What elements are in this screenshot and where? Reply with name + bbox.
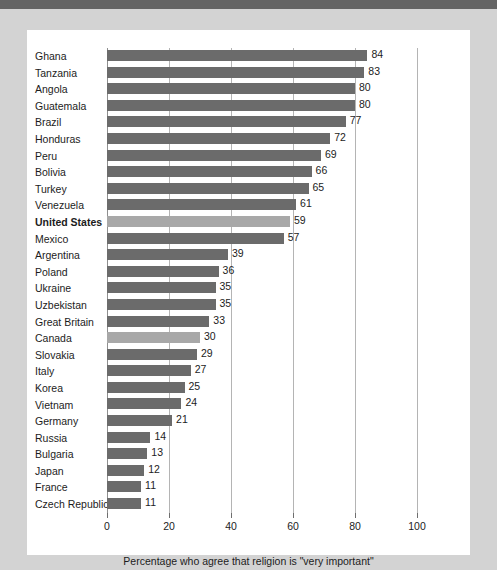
bar-value-label: 11	[145, 497, 156, 508]
bar[interactable]	[107, 316, 209, 327]
bar-row[interactable]: Bolivia66	[27, 164, 470, 181]
bar-row[interactable]: Ukraine35	[27, 280, 470, 297]
bar-rows: Ghana84Tanzania83Angola80Guatemala80Braz…	[27, 48, 470, 513]
bar[interactable]	[107, 349, 197, 360]
bar[interactable]	[107, 249, 228, 260]
category-label: France	[27, 482, 99, 493]
bar[interactable]	[107, 67, 364, 78]
bar-track	[107, 116, 417, 127]
bar-track	[107, 316, 417, 327]
bar-value-label: 39	[232, 248, 244, 259]
bar[interactable]	[107, 465, 144, 476]
bar[interactable]	[107, 116, 346, 127]
bar-track	[107, 415, 417, 426]
bar-row[interactable]: Korea25	[27, 380, 470, 397]
bar-row[interactable]: Honduras72	[27, 131, 470, 148]
bar[interactable]	[107, 133, 330, 144]
category-label: Venezuela	[27, 200, 99, 211]
bar-row[interactable]: Great Britain33	[27, 314, 470, 331]
bar-row[interactable]: Czech Republic11	[27, 496, 470, 513]
bar[interactable]	[107, 50, 367, 61]
x-axis: 020406080100	[27, 513, 470, 543]
bar-value-label: 65	[313, 182, 325, 193]
bar-value-label: 80	[359, 99, 371, 110]
bar-row[interactable]: Angola80	[27, 81, 470, 98]
bar[interactable]	[107, 282, 216, 293]
bar[interactable]	[107, 481, 141, 492]
bar-row[interactable]: United States59	[27, 214, 470, 231]
bar-row[interactable]: Canada30	[27, 330, 470, 347]
bar-row[interactable]: Brazil77	[27, 114, 470, 131]
bar-row[interactable]: Japan12	[27, 463, 470, 480]
category-label: Turkey	[27, 184, 99, 195]
bar-row[interactable]: Guatemala80	[27, 98, 470, 115]
bar-track	[107, 382, 417, 393]
bar[interactable]	[107, 382, 185, 393]
bar-value-label: 29	[201, 348, 213, 359]
bar-row[interactable]: Venezuela61	[27, 197, 470, 214]
bar-row[interactable]: France11	[27, 479, 470, 496]
bar-row[interactable]: Peru69	[27, 148, 470, 165]
bar[interactable]	[107, 199, 296, 210]
bar-value-label: 66	[316, 165, 328, 176]
bar[interactable]	[107, 398, 181, 409]
bar[interactable]	[107, 183, 309, 194]
category-label: Japan	[27, 466, 99, 477]
category-label: Tanzania	[27, 68, 99, 79]
bar[interactable]	[107, 448, 147, 459]
bar-row[interactable]: Germany21	[27, 413, 470, 430]
bar-value-label: 61	[300, 198, 312, 209]
x-tick-100	[417, 513, 418, 518]
category-label: Ghana	[27, 51, 99, 62]
chart-panel: Ghana84Tanzania83Angola80Guatemala80Braz…	[27, 30, 470, 555]
bar[interactable]	[107, 332, 200, 343]
bar-row[interactable]: Turkey65	[27, 181, 470, 198]
bar-row[interactable]: Ghana84	[27, 48, 470, 65]
bar-row[interactable]: Mexico57	[27, 231, 470, 248]
bar[interactable]	[107, 83, 355, 94]
category-label: Vietnam	[27, 400, 99, 411]
x-tick-40	[231, 513, 232, 518]
category-label: Czech Republic	[27, 499, 99, 510]
bar[interactable]	[107, 415, 172, 426]
bar-row[interactable]: Vietnam24	[27, 396, 470, 413]
bar[interactable]	[107, 216, 290, 227]
bar-track	[107, 233, 417, 244]
bar[interactable]	[107, 150, 321, 161]
bar-track	[107, 249, 417, 260]
bar-row[interactable]: Uzbekistan35	[27, 297, 470, 314]
bar-row[interactable]: Poland36	[27, 264, 470, 281]
bar-row[interactable]: Argentina39	[27, 247, 470, 264]
bar-row[interactable]: Tanzania83	[27, 65, 470, 82]
x-axis-caption: Percentage who agree that religion is "v…	[27, 555, 470, 567]
bar-value-label: 69	[325, 149, 337, 160]
bar[interactable]	[107, 166, 312, 177]
bar-row[interactable]: Russia14	[27, 430, 470, 447]
bar-track	[107, 166, 417, 177]
bar[interactable]	[107, 432, 150, 443]
bar-row[interactable]: Italy27	[27, 363, 470, 380]
bar[interactable]	[107, 233, 284, 244]
category-label: Angola	[27, 84, 99, 95]
category-label: Korea	[27, 383, 99, 394]
bar[interactable]	[107, 100, 355, 111]
x-tick-0	[107, 513, 108, 518]
category-label: Great Britain	[27, 317, 99, 328]
bar[interactable]	[107, 498, 141, 509]
bar-track	[107, 133, 417, 144]
bar-row[interactable]: Bulgaria13	[27, 446, 470, 463]
bar[interactable]	[107, 266, 219, 277]
bar-value-label: 84	[371, 49, 383, 60]
category-label: Mexico	[27, 234, 99, 245]
category-label: Canada	[27, 333, 99, 344]
bar-row[interactable]: Slovakia29	[27, 347, 470, 364]
x-tick-label: 100	[408, 520, 426, 532]
bar[interactable]	[107, 365, 191, 376]
bar-value-label: 11	[145, 480, 156, 491]
category-label: Slovakia	[27, 350, 99, 361]
category-label: Poland	[27, 267, 99, 278]
bar-value-label: 24	[185, 397, 197, 408]
x-tick-label: 60	[287, 520, 299, 532]
bar[interactable]	[107, 299, 216, 310]
x-tick-label: 0	[104, 520, 110, 532]
